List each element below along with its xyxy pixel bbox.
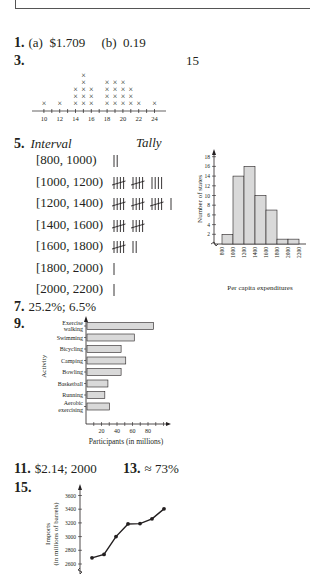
answer-15-side-number: 15 — [186, 53, 199, 69]
answer-1: 1. (a) $1.709 (b) 0.19 — [14, 33, 146, 51]
svg-text:Per capita expenditures: Per capita expenditures — [227, 284, 293, 292]
svg-text:walking: walking — [64, 326, 83, 332]
answer-9-number: 9. — [14, 316, 25, 332]
svg-text:12: 12 — [56, 115, 63, 122]
tally-row: [1000, 1200) — [36, 174, 222, 190]
interval-label: [1000, 1200) — [36, 174, 112, 190]
svg-text:Swimming: Swimming — [57, 335, 83, 341]
answer-number: 11. — [14, 461, 31, 476]
svg-text:Number of states: Number of states — [196, 175, 204, 223]
svg-text:Imports: Imports — [44, 523, 52, 545]
svg-text:2600: 2600 — [65, 561, 76, 567]
svg-text:22: 22 — [135, 115, 142, 122]
svg-text:×: × — [113, 78, 118, 87]
svg-text:Participants (in millions): Participants (in millions) — [89, 437, 164, 446]
svg-text:×: × — [89, 85, 94, 94]
svg-text:Camping: Camping — [61, 358, 83, 364]
svg-text:2200: 2200 — [296, 247, 302, 258]
svg-text:3400: 3400 — [65, 506, 76, 512]
answer-11: 11. $2.14; 2000 — [14, 459, 97, 477]
answer-text: 25.2%; 6.5% — [29, 299, 97, 314]
svg-text:×: × — [121, 78, 126, 87]
answer-number: 1. — [14, 35, 25, 50]
svg-text:1400: 1400 — [252, 247, 258, 258]
answer-text: ≈ 73% — [145, 461, 179, 476]
activity-bar-chart: 20406080Participants (in millions)Exerci… — [30, 316, 180, 446]
svg-text:×: × — [105, 78, 110, 87]
svg-text:Running: Running — [62, 392, 83, 398]
answer-text: $2.14; 2000 — [35, 461, 97, 476]
svg-text:18: 18 — [205, 154, 211, 160]
answer-number: 7. — [14, 299, 25, 314]
svg-text:20: 20 — [120, 115, 127, 122]
interval-label: [800, 1000) — [36, 152, 112, 168]
answer-number: 13. — [123, 461, 141, 476]
svg-text:8: 8 — [207, 202, 210, 208]
svg-text:16: 16 — [205, 163, 211, 169]
svg-text:(in millions of barrels): (in millions of barrels) — [52, 502, 60, 566]
svg-text:Exercise: Exercise — [62, 320, 83, 326]
expenditures-histogram: 2468101214161880010001200140016001800200… — [196, 148, 310, 294]
svg-text:40: 40 — [114, 428, 120, 434]
svg-text:×: × — [73, 85, 78, 94]
svg-text:80: 80 — [145, 428, 151, 434]
svg-text:Basketball: Basketball — [58, 381, 84, 387]
svg-text:×: × — [42, 99, 47, 108]
answer-3-number: 3. — [14, 53, 25, 69]
svg-text:16: 16 — [88, 115, 95, 122]
tally-row: [1600, 1800) — [36, 238, 222, 254]
svg-text:×: × — [136, 99, 141, 108]
interval-label: [1600, 1800) — [36, 238, 112, 254]
tally-row: [1800, 2000) — [36, 260, 222, 276]
svg-text:14: 14 — [205, 173, 211, 179]
svg-text:12: 12 — [205, 183, 211, 189]
svg-text:3600: 3600 — [65, 493, 76, 499]
svg-text:×: × — [152, 99, 157, 108]
answer-15-number: 15. — [14, 480, 32, 496]
tally-row: [2000, 2200) — [36, 281, 222, 297]
answer-13: 13. ≈ 73% — [123, 459, 179, 477]
answer-7: 7. 25.2%; 6.5% — [14, 297, 96, 315]
tally-row: [1200, 1400) — [36, 195, 222, 211]
previous-section-box — [15, 0, 310, 9]
svg-text:800: 800 — [219, 247, 225, 256]
svg-text:10: 10 — [41, 115, 48, 122]
svg-text:exercising: exercising — [58, 407, 83, 413]
svg-text:20: 20 — [99, 428, 105, 434]
svg-text:3200: 3200 — [65, 520, 76, 526]
svg-text:1600: 1600 — [263, 247, 269, 258]
svg-text:18: 18 — [104, 115, 111, 122]
svg-text:60: 60 — [130, 428, 136, 434]
svg-text:6: 6 — [207, 212, 210, 218]
svg-text:2000: 2000 — [285, 247, 291, 258]
svg-text:1800: 1800 — [274, 247, 280, 258]
svg-text:2800: 2800 — [65, 547, 76, 553]
tally-row: [800, 1000) — [36, 152, 222, 168]
svg-text:2: 2 — [207, 231, 210, 237]
svg-text:4: 4 — [207, 222, 210, 228]
interval-header: Interval — [31, 136, 72, 151]
interval-label: [2000, 2200) — [36, 281, 112, 297]
svg-text:Activity: Activity — [40, 354, 48, 377]
answer-text: (a) $1.709 (b) 0.19 — [29, 35, 146, 50]
tally-row: [1400, 1600) — [36, 217, 222, 233]
interval-label: [1400, 1600) — [36, 217, 112, 233]
answer-number: 5. — [14, 136, 25, 151]
svg-text:×: × — [129, 85, 134, 94]
svg-text:Aerobic: Aerobic — [64, 400, 84, 406]
svg-text:14: 14 — [72, 115, 79, 122]
svg-text:×: × — [57, 99, 62, 108]
interval-label: [1800, 2000) — [36, 260, 112, 276]
svg-text:Bicycling: Bicycling — [60, 346, 83, 352]
svg-text:10: 10 — [205, 193, 211, 199]
svg-text:24: 24 — [151, 115, 158, 122]
answer-5-header: 5. Interval Tally — [14, 134, 72, 152]
svg-text:1200: 1200 — [241, 247, 247, 258]
svg-text:Bowling: Bowling — [62, 369, 83, 375]
svg-text:1000: 1000 — [230, 247, 236, 258]
quiz-scores-dot-plot: 1012141618202224Quiz Scores×××××××××××××… — [30, 54, 170, 124]
svg-text:×: × — [81, 71, 86, 80]
imports-line-chart: 260028003000320034003600Imports(in milli… — [40, 482, 170, 574]
svg-text:3000: 3000 — [65, 534, 76, 540]
interval-label: [1200, 1400) — [36, 195, 112, 211]
